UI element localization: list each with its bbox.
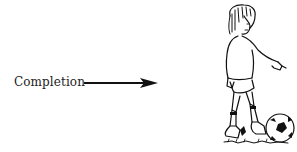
soccer-player-illustration: [222, 2, 296, 150]
completion-label: Completion: [14, 75, 85, 89]
right-arrow-icon: [84, 77, 160, 89]
